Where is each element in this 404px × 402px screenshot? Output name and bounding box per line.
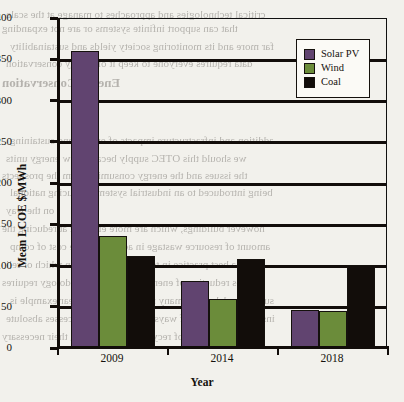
y-tick-label: 0 bbox=[0, 342, 12, 353]
gridline bbox=[58, 224, 386, 227]
x-tick-label: 2018 bbox=[292, 352, 372, 364]
bar-wind-2018 bbox=[319, 311, 347, 347]
y-axis-label: Mean LCOE $/MWh bbox=[16, 164, 28, 268]
legend-swatch-icon bbox=[304, 49, 315, 60]
legend-label: Coal bbox=[321, 77, 341, 88]
y-tick-label: 100 bbox=[0, 260, 12, 271]
x-tick-mark bbox=[277, 346, 279, 355]
scanned-page: critical technologies and approaches to … bbox=[0, 0, 404, 402]
bar-coal-2014 bbox=[237, 259, 265, 347]
legend-label: Wind bbox=[321, 63, 344, 74]
gridline bbox=[58, 141, 386, 144]
x-tick-mark bbox=[57, 346, 59, 355]
legend-swatch-icon bbox=[304, 63, 315, 74]
y-tick-label: 300 bbox=[0, 95, 12, 106]
bar-coal-2018 bbox=[347, 265, 375, 347]
bar-solar-pv-2018 bbox=[291, 310, 319, 347]
y-axis-line bbox=[57, 18, 60, 349]
x-axis-line bbox=[57, 346, 388, 349]
y-tick-label: 250 bbox=[0, 136, 12, 147]
legend-label: Solar PV bbox=[321, 49, 359, 60]
bar-wind-2014 bbox=[209, 299, 237, 347]
bar-solar-pv-2014 bbox=[181, 281, 209, 347]
x-tick-mark bbox=[167, 346, 169, 355]
x-tick-mark bbox=[387, 346, 389, 355]
y-tick-label: 350 bbox=[0, 53, 12, 64]
legend-swatch-icon bbox=[304, 77, 315, 88]
legend-item-wind: Wind bbox=[304, 63, 363, 74]
y-tick-label: 200 bbox=[0, 177, 12, 188]
x-axis-label: Year bbox=[0, 376, 404, 388]
legend-item-solar-pv: Solar PV bbox=[304, 49, 363, 60]
y-tick-label: 400 bbox=[0, 12, 12, 23]
x-tick-label: 2014 bbox=[182, 352, 262, 364]
bar-wind-2009 bbox=[99, 236, 127, 347]
gridline bbox=[58, 183, 386, 186]
chart-legend: Solar PVWindCoal bbox=[296, 39, 370, 98]
gridline bbox=[58, 100, 386, 103]
y-tick-label: 150 bbox=[0, 218, 12, 229]
y-tick-label: 50 bbox=[0, 301, 12, 312]
bar-chart: Mean LCOE $/MWh 050100150200250300350400… bbox=[0, 0, 404, 402]
bar-coal-2009 bbox=[127, 256, 155, 347]
legend-item-coal: Coal bbox=[304, 77, 363, 88]
x-tick-label: 2009 bbox=[72, 352, 152, 364]
bar-solar-pv-2009 bbox=[71, 51, 99, 347]
